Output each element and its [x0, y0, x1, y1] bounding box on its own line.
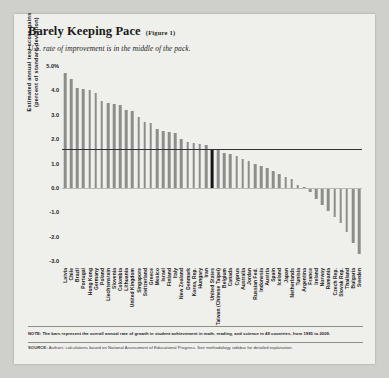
- bar: [217, 150, 220, 188]
- bar: [358, 188, 361, 254]
- y-axis-tick: 2.0: [51, 136, 59, 142]
- x-axis-tick-label: Portugal: [81, 268, 86, 289]
- bar: [101, 101, 104, 188]
- bar: [352, 188, 355, 243]
- zero-baseline: [62, 188, 362, 189]
- x-axis-tick-label: United States: [210, 268, 215, 301]
- x-axis-tick-label: Mexico: [154, 268, 159, 285]
- x-axis-tick-label: Russian Fed.: [252, 268, 257, 300]
- x-axis-labels: LatviaChileBrazilPortugalHong KongGerman…: [62, 267, 362, 327]
- bar: [150, 123, 153, 188]
- x-axis-tick-label: Sweden: [357, 268, 362, 287]
- bar: [223, 153, 226, 188]
- bar: [156, 129, 159, 188]
- y-axis-title: Estimated annual test-score gains (perce…: [26, 2, 40, 122]
- chart-plot-area: Estimated annual test-score gains (perce…: [28, 60, 364, 322]
- x-axis-tick-label: Canada: [228, 268, 233, 286]
- bar: [82, 89, 85, 188]
- bar-highlighted: [211, 149, 214, 188]
- bar: [290, 179, 293, 188]
- bar: [278, 174, 281, 187]
- x-axis-tick-label: United Kingdom: [130, 268, 135, 307]
- y-axis-tick: -2.0: [49, 234, 59, 240]
- bar: [315, 188, 318, 199]
- x-axis-tick-label: Argentina: [301, 268, 306, 292]
- bar: [76, 88, 79, 188]
- y-axis-tick: -3.0: [49, 258, 59, 264]
- x-axis-tick-label: Finland: [167, 268, 172, 286]
- bar: [205, 145, 208, 188]
- x-axis-tick-label: Iceland: [277, 268, 282, 286]
- bar: [284, 177, 287, 188]
- x-axis-tick-label: France: [308, 268, 313, 285]
- x-axis-tick-label: Austria: [265, 268, 270, 286]
- bar: [162, 131, 165, 188]
- y-axis-tick: -1.0: [49, 209, 59, 215]
- note-body: The bars represent the overall annual ra…: [43, 331, 331, 336]
- reference-line: [62, 149, 362, 150]
- x-axis-tick-label: Hong Kong: [87, 268, 92, 295]
- x-axis-tick-label: Germany: [93, 268, 98, 290]
- bar: [272, 171, 275, 188]
- x-axis-tick-label: New Zealand: [179, 268, 184, 299]
- bar: [339, 188, 342, 223]
- bar: [70, 79, 73, 187]
- source-text: SOURCE: Authors' calculations based on N…: [28, 345, 365, 351]
- chart-axis: 5.0%4.03.02.01.00.0-1.0-2.0-3.0: [62, 66, 362, 261]
- x-axis-tick-label: Romania: [326, 268, 331, 289]
- bar: [119, 105, 122, 188]
- x-axis-tick-label: Greece: [148, 268, 153, 285]
- title-row: Barely Keeping Pace (Figure 1): [28, 24, 363, 39]
- bar: [248, 161, 251, 188]
- figure-number-label: (Figure 1): [146, 29, 176, 36]
- bar: [229, 154, 232, 188]
- bar: [174, 133, 177, 188]
- note-text: NOTE: The bars represent the overall ann…: [28, 331, 365, 337]
- x-axis-tick-label: Israel: [161, 268, 166, 281]
- x-axis-tick-label: Australia: [240, 268, 245, 290]
- page-title: Barely Keeping Pace: [28, 24, 141, 39]
- bar: [199, 144, 202, 188]
- x-axis-tick-label: Netherlands: [289, 268, 294, 297]
- divider-source: [28, 342, 363, 343]
- bar: [241, 159, 244, 188]
- subtitle: U.S. rate of improvement is in the middl…: [28, 44, 363, 53]
- x-axis-tick-label: Denmark: [185, 268, 190, 290]
- x-axis-tick-label: Ireland: [314, 268, 319, 285]
- bar: [113, 104, 116, 188]
- x-axis-tick-label: Italy: [173, 268, 178, 278]
- x-axis-tick-label: Tunisia: [295, 268, 300, 285]
- y-axis-tick: 1.0: [51, 161, 59, 167]
- x-axis-tick-label: Iran: [203, 268, 208, 277]
- bar: [235, 156, 238, 188]
- x-axis-tick-label: Spain: [271, 268, 276, 282]
- bar: [327, 188, 330, 211]
- x-axis-tick-label: Poland: [99, 268, 104, 285]
- x-axis-tick-label: Liechtenstein: [105, 268, 110, 301]
- x-axis-tick-label: Slovenia: [112, 268, 117, 289]
- x-axis-tick-label: Switzerland: [142, 268, 147, 296]
- x-axis-tick-label: Czech Rep.: [332, 268, 337, 295]
- y-axis-tick: 3.0: [51, 112, 59, 118]
- bar: [107, 103, 110, 188]
- bar: [333, 188, 336, 217]
- x-axis-tick-label: Slovak Rep.: [338, 268, 343, 297]
- x-axis-tick-label: Korea, Rep.: [191, 268, 196, 296]
- y-axis-tick: 5.0%: [46, 63, 59, 69]
- bar: [168, 132, 171, 188]
- x-axis-tick-label: Jordan: [246, 268, 251, 285]
- y-axis-tick: 0.0: [51, 185, 59, 191]
- x-axis-tick-label: Hungary: [197, 268, 202, 289]
- x-axis-tick-label: Indonesia: [259, 268, 264, 292]
- x-axis-tick-label: Singapore: [136, 268, 141, 293]
- y-axis-tick: 4.0: [51, 87, 59, 93]
- note-label: NOTE:: [28, 331, 41, 336]
- x-axis-tick-label: Lithuania: [124, 268, 129, 291]
- bar-item[interactable]: [356, 66, 362, 261]
- x-axis-tick-label: Cyprus: [234, 268, 239, 285]
- x-axis-tick-label: Chile: [69, 268, 74, 280]
- bar: [260, 166, 263, 188]
- x-axis-tick-label: Latvia: [63, 268, 68, 283]
- bar-series: [62, 66, 362, 261]
- bar: [266, 168, 269, 188]
